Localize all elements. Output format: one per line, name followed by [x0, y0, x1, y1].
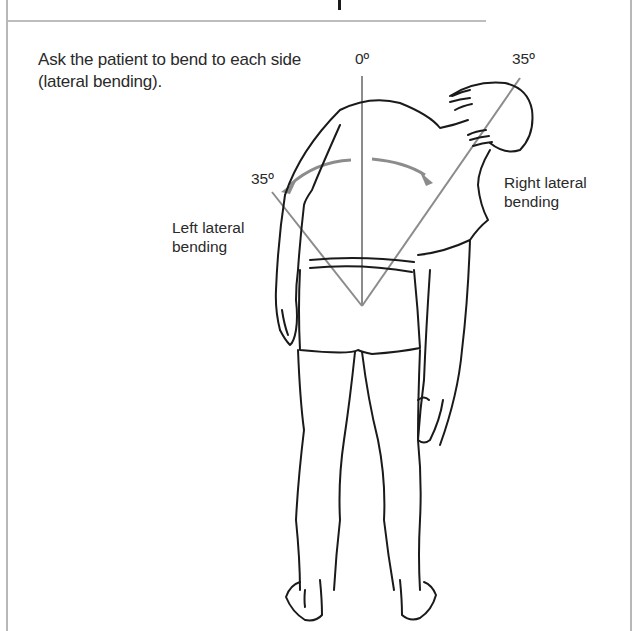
right-arrowhead-icon — [420, 172, 433, 186]
right-arrow-shaft — [372, 159, 425, 175]
left-35-degree-label: 35º — [251, 169, 274, 188]
right-35-degree-line — [362, 78, 520, 306]
lateral-bending-illustration — [0, 0, 642, 631]
right-lateral-bending-label: Right lateral bending — [504, 173, 614, 211]
angle-reference-lines — [272, 76, 520, 306]
patient-figure — [276, 83, 533, 621]
left-35-degree-line — [272, 192, 362, 306]
right-35-degree-label: 35º — [512, 49, 535, 68]
left-lateral-bending-label: Left lateral bending — [172, 218, 272, 256]
bending-arrows — [290, 159, 425, 185]
zero-degree-label: 0º — [355, 49, 369, 68]
